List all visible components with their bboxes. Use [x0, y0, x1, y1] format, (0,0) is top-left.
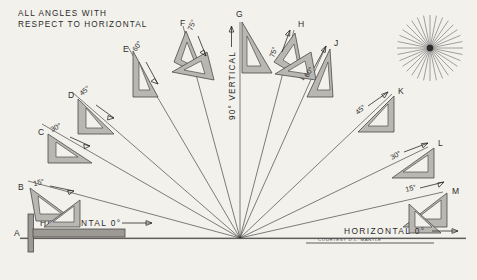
vertical-arrow — [229, 26, 234, 47]
ray-30-right — [240, 147, 428, 238]
angle-label-f: 75° — [186, 18, 198, 32]
angle-label-e: 60° — [130, 39, 144, 53]
starburst-ray — [424, 50, 430, 80]
station-label-j: J — [334, 38, 338, 48]
starburst-ray — [432, 42, 462, 48]
angle-arrow-m — [420, 182, 444, 188]
starburst-ray — [431, 49, 453, 71]
horizontal-right-group: HORIZONTAL 0° — [344, 226, 458, 236]
station-label-d: D — [68, 90, 74, 100]
station-k-triangle: K 45° — [353, 86, 404, 132]
station-l-triangle: L 30° — [389, 138, 443, 178]
station-label-b: B — [18, 182, 24, 192]
angle-label-k: 45° — [353, 102, 367, 116]
starburst-ray — [398, 42, 428, 48]
station-label-k: K — [398, 86, 404, 96]
horizontal-right-label: HORIZONTAL 0° — [344, 226, 426, 236]
triangle-d — [78, 99, 114, 134]
triangle-k — [358, 96, 394, 132]
station-label-f: F — [180, 18, 185, 28]
station-g-triangle: G 90° VERTICAL — [228, 9, 272, 120]
station-f-triangle-pair: F 75° — [172, 18, 214, 80]
starburst-ray — [432, 48, 462, 54]
starburst-icon — [397, 15, 463, 81]
title-line-2: RESPECT TO HORIZONTAL — [18, 20, 147, 29]
angle-label-b: 15° — [32, 177, 45, 188]
angle-label-d: 45° — [78, 84, 92, 98]
starburst-ray — [430, 50, 436, 80]
angle-arrow-f — [198, 36, 206, 56]
station-b-triangle-pair: B 15° — [18, 177, 80, 227]
angles-diagram: ALL ANGLES WITH RESPECT TO HORIZONTAL A … — [0, 0, 477, 280]
tsquare-blade — [33, 229, 125, 237]
starburst-center — [427, 45, 433, 51]
ray-45-left — [72, 92, 240, 238]
angle-label-l: 30° — [389, 149, 403, 162]
station-label-h: H — [298, 19, 304, 29]
station-j-triangle: J 60° — [302, 38, 338, 97]
credit-text: COURTESY D.L. MANTLE — [318, 237, 382, 242]
angle-arrow-c — [70, 137, 90, 149]
triangle-d-cutout — [86, 108, 103, 128]
station-label-e: E — [123, 44, 129, 54]
triangle-c-cutout — [56, 142, 78, 157]
triangle-b-1-cutout — [38, 196, 62, 214]
angle-label-m: 15° — [404, 183, 417, 194]
vertical-label: 90° VERTICAL — [228, 51, 237, 120]
station-label-a: A — [14, 228, 20, 238]
station-e-triangle: E 60° — [123, 39, 158, 97]
horizontal-left-arrow — [122, 221, 152, 226]
starburst-ray — [430, 16, 436, 46]
station-label-c: C — [38, 127, 44, 137]
station-label-g: G — [236, 9, 243, 19]
starburst-ray — [424, 16, 430, 46]
station-a-tsquare: A HORIZONTAL 0° — [14, 214, 152, 252]
angle-arrow-l — [404, 143, 428, 152]
angle-arrow-k — [368, 92, 388, 106]
starburst-ray — [431, 25, 453, 47]
angle-label-c: 30° — [49, 121, 63, 134]
ray-45-right — [240, 94, 392, 238]
starburst-ray — [407, 49, 429, 71]
diagram-canvas: ALL ANGLES WITH RESPECT TO HORIZONTAL A … — [0, 0, 477, 280]
starburst-ray — [407, 25, 429, 47]
station-label-m: M — [452, 186, 459, 196]
title-line-1: ALL ANGLES WITH — [18, 9, 107, 18]
starburst-ray — [398, 48, 428, 54]
station-label-l: L — [438, 138, 443, 148]
angle-arrow-d — [96, 105, 114, 120]
